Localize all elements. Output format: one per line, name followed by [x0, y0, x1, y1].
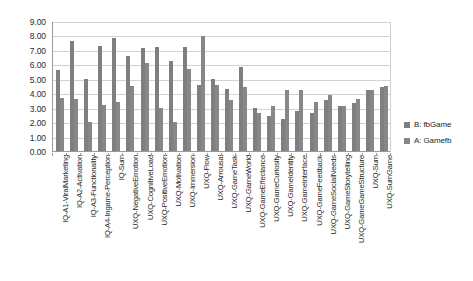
x-axis-tick-label: IQ-A2-Activation	[76, 155, 83, 208]
y-axis-tick-label: 2.00	[30, 119, 46, 127]
y-axis-tick-label: 3.00	[30, 105, 46, 113]
x-axis-tick-label: UXQ-GameStorytelling	[344, 155, 351, 229]
x-axis-tick-label: UXQ-GameWorld	[245, 155, 252, 212]
bars-layer	[53, 22, 390, 151]
x-axis-tick	[390, 153, 391, 156]
bar-group	[67, 22, 81, 151]
bar-group	[236, 22, 250, 151]
x-axis-tick-label: UXQ-Flow	[203, 155, 210, 189]
legend-swatch-icon	[404, 122, 410, 128]
x-axis-tick	[80, 153, 81, 156]
x-axis-tick-label: IQ-Sum	[118, 155, 125, 180]
legend-swatch-icon	[404, 138, 410, 144]
x-axis-tick-label: UXQ-Motivation	[175, 155, 182, 207]
bar-group	[222, 22, 236, 151]
x-axis-tick	[207, 153, 208, 156]
bar	[356, 99, 360, 151]
bar-group	[180, 22, 194, 151]
legend-label: B: fbGame	[414, 120, 451, 129]
x-axis-tick-label: UXQ-GameGameStructure	[358, 155, 365, 243]
x-axis-tick	[320, 153, 321, 156]
y-axis-tick-label: 8.00	[30, 32, 46, 40]
x-axis-tick	[221, 153, 222, 156]
bar-chart: 0.001.002.003.004.005.006.007.008.009.00…	[0, 0, 473, 281]
bar	[243, 87, 247, 151]
bar-group	[194, 22, 208, 151]
x-axis-tick-label: UXQ-PositiveEmotion	[161, 155, 168, 226]
bar-group	[166, 22, 180, 151]
x-axis-tick-label: UXQ-GameTask	[231, 155, 238, 208]
x-axis-tick	[306, 153, 307, 156]
bar	[74, 99, 78, 151]
bar-group	[53, 22, 67, 151]
x-axis-tick-label: UXQ-CognitiveLoad	[147, 155, 154, 220]
bar	[88, 122, 92, 151]
x-axis-tick-label: UXQ-GameEffectance	[259, 155, 266, 228]
bar	[145, 63, 149, 151]
bar	[285, 90, 289, 151]
bar-group	[363, 22, 377, 151]
x-axis-tick-label: UXQ-GameSocialNeeds	[330, 155, 337, 234]
x-axis-tick	[52, 153, 53, 156]
y-axis-tick-label: 6.00	[30, 61, 46, 69]
x-axis-tick	[165, 153, 166, 156]
x-axis-tick-label: UXQ-GameIdentity	[287, 155, 294, 217]
x-axis-tick	[334, 153, 335, 156]
bar-group	[321, 22, 335, 151]
bar	[328, 95, 332, 151]
x-axis-labels: IQ-A1-ViralMarketingIQ-A2-ActivationIQ-A…	[52, 153, 390, 281]
legend-item[interactable]: A: Gamefb	[404, 136, 451, 145]
x-axis-tick	[179, 153, 180, 156]
bar	[187, 69, 191, 151]
bar	[342, 106, 346, 152]
x-axis-tick	[277, 153, 278, 156]
bar	[201, 36, 205, 151]
x-axis-tick	[235, 153, 236, 156]
bar-group	[138, 22, 152, 151]
x-axis-tick-label: UXQ-SumGame	[386, 155, 393, 209]
x-axis-tick-label: IQ-A4-Ingame-Perception	[104, 155, 111, 238]
x-axis-tick-label: IQ-A1-ViralMarketing	[62, 155, 69, 223]
x-axis-tick	[94, 153, 95, 156]
bar	[384, 86, 388, 151]
y-axis-tick-label: 4.00	[30, 90, 46, 98]
x-axis-tick	[108, 153, 109, 156]
y-axis-tick-label: 9.00	[30, 18, 46, 26]
bar	[215, 85, 219, 151]
bar	[271, 106, 275, 152]
bar-group	[264, 22, 278, 151]
x-axis-tick-label: UXQ-GameInterface	[301, 155, 308, 222]
x-axis-tick-label: UXQ-GameFeedback	[316, 155, 323, 226]
x-axis-tick-label: IQ-A3-Functionality	[90, 155, 97, 217]
bar	[102, 105, 106, 151]
bar-group	[152, 22, 166, 151]
x-axis-tick-label: UXQ-Arrousal	[217, 155, 224, 200]
y-axis-tick-label: 5.00	[30, 76, 46, 84]
x-axis-tick	[291, 153, 292, 156]
bar	[257, 113, 261, 151]
bar-group	[109, 22, 123, 151]
bar	[173, 122, 177, 151]
bar-group	[307, 22, 321, 151]
bar-group	[95, 22, 109, 151]
legend-item[interactable]: B: fbGame	[404, 120, 451, 129]
bar-group	[250, 22, 264, 151]
chart-legend: B: fbGameA: Gamefb	[404, 120, 451, 145]
bar-group	[208, 22, 222, 151]
bar	[159, 108, 163, 151]
x-axis-tick	[137, 153, 138, 156]
x-axis-tick	[263, 153, 264, 156]
bar-group	[81, 22, 95, 151]
bar	[60, 98, 64, 151]
bar-group	[278, 22, 292, 151]
bar	[130, 86, 134, 151]
x-axis-tick	[193, 153, 194, 156]
x-axis-tick	[66, 153, 67, 156]
bar-group	[123, 22, 137, 151]
bar	[229, 100, 233, 151]
plot-area	[52, 22, 390, 152]
x-axis-tick-label: UXQ-Sum	[372, 155, 379, 189]
legend-label: A: Gamefb	[414, 136, 451, 145]
x-axis-tick-label: UXQ-GameCuriosity	[273, 155, 280, 222]
x-axis-tick	[376, 153, 377, 156]
